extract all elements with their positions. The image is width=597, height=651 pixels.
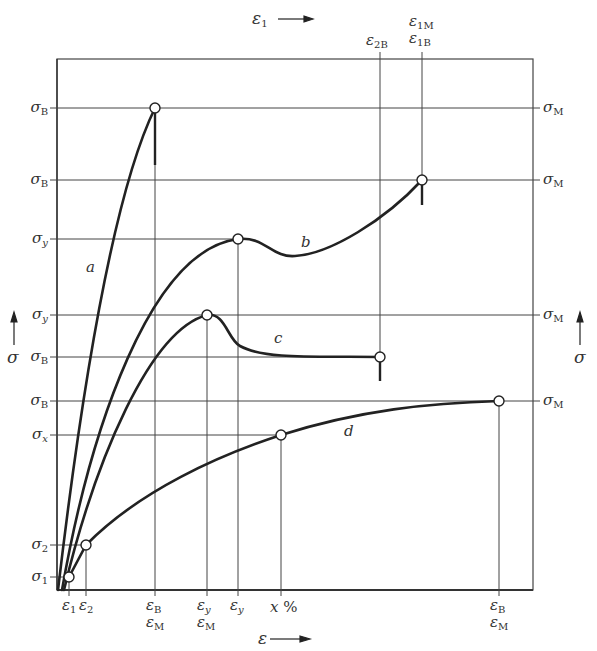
left-label-sigma-B-3: σB — [0, 349, 48, 366]
bottom-label-eps-B-M-1: εBεM — [146, 598, 164, 632]
curve-label-b: b — [301, 233, 311, 251]
sub: M — [553, 106, 563, 117]
sub: 2 — [87, 604, 93, 615]
right-label-sigma-M-3: σM — [543, 307, 564, 324]
point-b-yield — [233, 234, 243, 244]
sym: ε — [197, 613, 205, 631]
sub: 1B — [417, 37, 431, 48]
bottom-eps-symbol: ε — [258, 628, 267, 648]
sub: y — [205, 604, 211, 615]
sub: y — [238, 604, 244, 615]
top-arrow-head-icon — [304, 16, 313, 22]
top-label-eps-2B: ε2B — [366, 33, 388, 50]
point-c-break — [375, 352, 385, 362]
sym: ε — [62, 596, 70, 614]
sym: σ — [543, 170, 553, 188]
point-d-break — [494, 396, 504, 406]
sub: B — [498, 604, 505, 615]
left-label-sigma-B-2: σB — [0, 172, 48, 189]
sym: σ — [30, 98, 40, 116]
sym: σ — [543, 391, 553, 409]
bottom-label-eps-y-M: εyεM — [197, 598, 215, 632]
top-label-eps-1M-1B: ε1Mε1B — [409, 14, 434, 48]
percent-symbol: % — [283, 598, 297, 616]
curve-label-a: a — [86, 258, 95, 276]
point-d-2 — [81, 540, 91, 550]
sym: ε — [230, 596, 238, 614]
sym: ε — [490, 596, 498, 614]
bottom-label-eps-1: ε1 — [62, 598, 76, 615]
bottom-label-eps-2: ε2 — [79, 598, 93, 615]
sub: M — [154, 621, 164, 632]
left-label-sigma-y-1: σy — [0, 231, 48, 248]
sub: B — [41, 355, 48, 366]
sub: M — [553, 313, 563, 324]
top-eps-sub: 1 — [261, 18, 267, 29]
sym: σ — [30, 170, 40, 188]
bottom-arrow-head-icon — [300, 636, 310, 642]
left-label-sigma-B-1: σB — [0, 100, 48, 117]
bottom-label-x-percent: x % — [270, 600, 298, 615]
sub: 1 — [70, 604, 76, 615]
sub: M — [553, 178, 563, 189]
sym: σ — [32, 305, 42, 323]
left-label-sigma-x: σx — [0, 427, 48, 444]
sub: M — [498, 621, 508, 632]
point-c-yield — [202, 310, 212, 320]
point-a-break — [150, 103, 160, 113]
curve-c — [64, 315, 380, 590]
sub: y — [42, 313, 48, 324]
point-d-1 — [64, 572, 74, 582]
sym: ε — [79, 596, 87, 614]
vertical-reference-lines — [69, 52, 499, 596]
sym: ε — [146, 613, 154, 631]
sym: ε — [490, 613, 498, 631]
bottom-axis-label: ε — [258, 630, 267, 647]
sym: ε — [197, 596, 205, 614]
bottom-label-eps-y: εy — [230, 598, 244, 615]
sub: B — [41, 106, 48, 117]
right-sigma-symbol: σ — [574, 347, 586, 367]
sym: ε — [409, 12, 417, 30]
sub: M — [205, 621, 215, 632]
right-label-sigma-M-4: σM — [543, 393, 564, 410]
sym: ε — [409, 29, 417, 47]
sub: 1M — [417, 20, 434, 31]
left-label-sigma-y-2: σy — [0, 307, 48, 324]
sub: 2 — [42, 543, 48, 554]
sym: σ — [543, 98, 553, 116]
left-label-sigma-B-4: σB — [0, 393, 48, 410]
sub: M — [553, 399, 563, 410]
sym: σ — [543, 305, 553, 323]
sym: ε — [366, 31, 374, 49]
sub: 1 — [42, 575, 48, 586]
stress-strain-diagram — [0, 0, 597, 651]
sym: ε — [146, 596, 154, 614]
sym: σ — [31, 567, 41, 585]
sym: σ — [31, 535, 41, 553]
sym: σ — [32, 425, 42, 443]
sub: 2B — [374, 39, 388, 50]
curve-label-c: c — [274, 329, 282, 347]
sub: x — [42, 433, 48, 444]
curve-d — [69, 401, 499, 577]
top-axis-label: ε1 — [252, 10, 268, 29]
right-label-sigma-M-1: σM — [543, 100, 564, 117]
sym: σ — [32, 229, 42, 247]
right-label-sigma-M-2: σM — [543, 172, 564, 189]
x-symbol: x — [270, 598, 278, 616]
right-arrow-head-icon — [577, 312, 583, 322]
horizontal-reference-lines — [50, 108, 540, 577]
point-b-break — [417, 175, 427, 185]
sub: B — [41, 399, 48, 410]
left-label-sigma-2: σ2 — [0, 537, 48, 554]
top-eps-symbol: ε — [252, 8, 261, 28]
sub: B — [154, 604, 161, 615]
bottom-label-eps-B-M-2: εBεM — [490, 598, 508, 632]
right-axis-label: σ — [574, 349, 586, 366]
sub: y — [42, 237, 48, 248]
curve-label-d: d — [344, 422, 354, 440]
sym: σ — [30, 391, 40, 409]
point-d-x — [276, 430, 286, 440]
left-label-sigma-1: σ1 — [0, 569, 48, 586]
